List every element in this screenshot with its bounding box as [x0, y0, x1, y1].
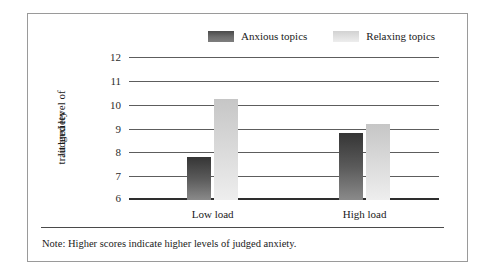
plot-area: 1211109876 Low loadHigh load	[129, 57, 439, 200]
y-axis-tick-label: 7	[116, 171, 122, 182]
bar-series-group	[129, 57, 439, 200]
y-axis-tick-label: 10	[110, 99, 121, 110]
chart-legend: Anxious topics Relaxing topics	[208, 29, 435, 43]
note-text: Note: Higher scores indicate higher leve…	[42, 238, 296, 250]
y-axis-tick-label: 11	[110, 75, 121, 86]
bar-relaxing-topics-high-load	[366, 124, 390, 200]
legend-swatch-relaxing-topics	[333, 31, 359, 42]
note-divider	[41, 227, 444, 228]
bar-anxious-topics-low-load	[187, 157, 211, 200]
legend-swatch-anxious-topics	[208, 31, 234, 42]
legend-label-anxious-topics: Anxious topics	[241, 31, 307, 42]
x-axis-label: Low load	[192, 209, 234, 220]
legend-item-anxious-topics: Anxious topics	[208, 31, 307, 42]
legend-item-relaxing-topics: Relaxing topics	[333, 31, 435, 42]
y-axis-tick-label: 8	[116, 147, 122, 158]
y-axis-title-line-2: trait anxiety	[55, 112, 68, 165]
bar-anxious-topics-high-load	[339, 133, 363, 200]
figure-panel: Anxious topics Relaxing topics Judged le…	[27, 13, 468, 262]
bar-relaxing-topics-low-load	[214, 99, 238, 200]
legend-label-relaxing-topics: Relaxing topics	[366, 31, 435, 42]
y-axis-tick-label: 9	[116, 123, 122, 134]
y-axis-tick-label: 12	[110, 52, 121, 63]
x-axis-label: High load	[343, 209, 387, 220]
y-axis-tick-label: 6	[116, 193, 122, 204]
y-axis-title: Judged level of trait anxiety	[51, 77, 71, 185]
